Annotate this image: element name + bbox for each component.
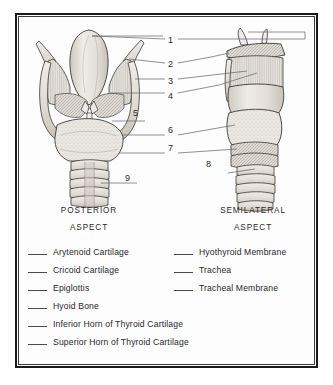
- answer-label: Arytenoid Cartilage: [53, 247, 129, 257]
- worksheet-page: 123456789 POSTERIOR ASPECT SEMILATERAL A…: [0, 0, 333, 385]
- answer-blank-field[interactable]: [28, 282, 47, 291]
- caption-semilateral-line1: SEMILATERAL: [194, 207, 312, 215]
- answer-row: Cricoid Cartilage: [28, 264, 180, 282]
- answer-column-right: Hyothyroid MembraneTracheaTracheal Membr…: [174, 246, 322, 300]
- larynx-illustration-svg: [15, 13, 318, 213]
- answer-blank-field[interactable]: [174, 264, 193, 273]
- answer-blank-field[interactable]: [28, 300, 47, 309]
- answer-blank-field[interactable]: [28, 318, 47, 327]
- caption-posterior-aspect: POSTERIOR ASPECT: [34, 207, 144, 232]
- callout-number-9: 9: [125, 174, 130, 183]
- answer-row: Hyothyroid Membrane: [174, 246, 322, 264]
- answer-label: Epiglottis: [53, 283, 89, 293]
- answer-blank-field[interactable]: [174, 282, 193, 291]
- larynx-figure: [15, 13, 318, 213]
- answer-row: Trachea: [174, 264, 322, 282]
- caption-semilateral-aspect: SEMILATERAL ASPECT: [194, 207, 312, 232]
- callout-number-6: 6: [168, 126, 173, 135]
- callout-number-3: 3: [168, 77, 173, 86]
- callout-number-5: 5: [133, 109, 138, 118]
- answer-label: Tracheal Membrane: [199, 283, 278, 293]
- semilateral-view-drawing: [225, 28, 285, 211]
- answer-label: Superior Horn of Thyroid Cartilage: [53, 337, 189, 347]
- caption-posterior-line1: POSTERIOR: [34, 207, 144, 215]
- answer-blank-field[interactable]: [28, 264, 47, 273]
- answer-label: Hyothyroid Membrane: [199, 247, 286, 257]
- answer-label: Hyoid Bone: [53, 301, 99, 311]
- answer-row: Tracheal Membrane: [174, 282, 322, 300]
- answer-column-left: Arytenoid CartilageCricoid CartilageEpig…: [28, 246, 180, 354]
- caption-semilateral-line2: ASPECT: [194, 224, 312, 232]
- callout-number-1: 1: [168, 36, 173, 45]
- answer-blank-field[interactable]: [174, 246, 193, 255]
- callout-number-7: 7: [168, 144, 173, 153]
- answer-row: Arytenoid Cartilage: [28, 246, 180, 264]
- answer-label: Trachea: [199, 265, 231, 275]
- answer-blank-field[interactable]: [28, 336, 47, 345]
- answer-label: Cricoid Cartilage: [53, 265, 119, 275]
- callout-number-8: 8: [206, 160, 211, 169]
- callout-number-2: 2: [168, 60, 173, 69]
- answer-row: Inferior Horn of Thyroid Cartilage: [28, 318, 180, 336]
- answer-row: Hyoid Bone: [28, 300, 180, 318]
- answer-row: Epiglottis: [28, 282, 180, 300]
- answer-row: Superior Horn of Thyroid Cartilage: [28, 336, 180, 354]
- answer-blank-field[interactable]: [28, 246, 47, 255]
- caption-posterior-line2: ASPECT: [34, 224, 144, 232]
- callout-number-4: 4: [168, 92, 173, 101]
- answer-label: Inferior Horn of Thyroid Cartilage: [53, 319, 183, 329]
